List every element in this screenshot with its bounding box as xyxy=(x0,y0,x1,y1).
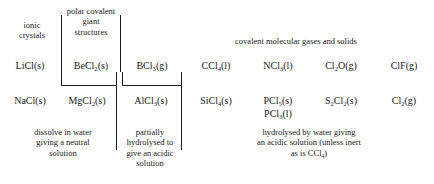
note-partial-hydrolysis: partially hydrolysed to give an acidic s… xyxy=(120,127,180,168)
species-clf: ClF(g) xyxy=(376,60,432,72)
bracket-bcl3-bottom-rule xyxy=(122,85,182,86)
bracket-becl2-bottom-right-stub xyxy=(116,72,117,86)
category-label-ionic-crystals: ionic crystals xyxy=(2,20,62,41)
species-nacl: NaCl(s) xyxy=(2,95,58,107)
species-ncl3: NCl3(l) xyxy=(250,60,306,72)
bracket-polar-covalent-right-edge xyxy=(120,15,121,72)
species-alcl3: AlCl3(s) xyxy=(122,95,180,107)
bracket-bcl3-bottom-right-stub xyxy=(181,72,182,86)
species-ccl4: CCl4(l) xyxy=(188,60,244,72)
divider-mgcl2-alcl3 xyxy=(116,86,117,150)
category-label-covalent-molecular: covalent molecular gases and solids xyxy=(205,36,387,46)
divider-alcl3-sicl4 xyxy=(181,86,182,150)
species-pcl3: PCl3(l) xyxy=(250,108,306,120)
species-cl2: Cl2(g) xyxy=(376,95,432,107)
species-pcl5: PCl5(s) xyxy=(250,95,306,107)
note-acidic-hydrolysis: hydrolysed by water givingan acidic solu… xyxy=(186,127,432,158)
note-neutral-solution: dissolve in water giving a neutral solut… xyxy=(10,127,116,158)
species-s2cl2: S2Cl2(s) xyxy=(313,95,369,107)
species-licl: LiCl(s) xyxy=(2,60,58,72)
chlorides-periodicity-diagram: ionic crystals polar covalent giant stru… xyxy=(0,0,434,184)
bracket-bcl3-bottom-left-stub xyxy=(122,72,123,86)
species-mgcl2: MgCl2(s) xyxy=(58,95,116,107)
species-bcl3: BCl3(g) xyxy=(123,60,181,72)
category-label-polar-covalent-giant-structures: polar covalent giant structures xyxy=(58,6,124,37)
species-sicl4: SiCl4(s) xyxy=(188,95,244,107)
bracket-becl2-bottom-rule xyxy=(61,85,117,86)
bracket-becl2-bottom-left-stub xyxy=(61,72,62,86)
species-becl2: BeCl2(s) xyxy=(62,60,120,72)
species-cl2o: Cl2O(g) xyxy=(313,60,369,72)
